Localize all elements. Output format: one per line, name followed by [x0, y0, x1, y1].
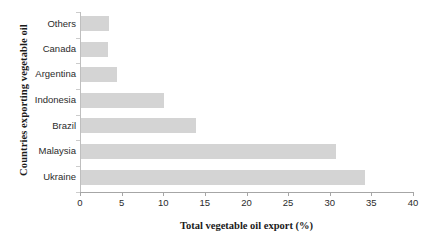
x-axis-tick [205, 192, 206, 196]
x-axis-tick [163, 192, 164, 196]
y-tick-label-argentina: Argentina [22, 68, 76, 79]
y-axis-tick-labels: Others Canada Argentina Indonesia Brazil… [22, 12, 76, 192]
x-tick-label-0: 0 [68, 197, 92, 209]
y-axis-tick [76, 89, 80, 90]
bar-ukraine [81, 170, 365, 185]
x-axis-tick [247, 192, 248, 196]
x-axis-tick-labels: 0510152025303540 [80, 192, 413, 212]
y-axis-tick [76, 166, 80, 167]
x-tick-label-15: 15 [193, 197, 217, 209]
y-axis-tick [76, 12, 80, 13]
bar-brazil [81, 118, 196, 133]
bar-argentina [81, 67, 117, 82]
bar-indonesia [81, 93, 164, 108]
x-tick-label-30: 30 [318, 197, 342, 209]
x-tick-label-20: 20 [235, 197, 259, 209]
x-axis-tick [122, 192, 123, 196]
bar-malaysia [81, 144, 336, 159]
y-axis-tick [76, 115, 80, 116]
y-tick-label-canada: Canada [22, 43, 76, 54]
y-axis-tick [76, 140, 80, 141]
x-axis-tick [288, 192, 289, 196]
x-axis-tick [330, 192, 331, 196]
x-tick-label-40: 40 [401, 197, 425, 209]
bar-others [81, 16, 109, 31]
x-axis-title: Total vegetable oil export (%) [80, 220, 413, 231]
y-tick-label-indonesia: Indonesia [22, 94, 76, 105]
y-tick-label-others: Others [22, 18, 76, 29]
x-tick-label-35: 35 [359, 197, 383, 209]
bar-canada [81, 42, 108, 57]
x-tick-label-25: 25 [276, 197, 300, 209]
y-tick-label-brazil: Brazil [22, 120, 76, 131]
bar-chart: Countries exporting vegetable oil Others… [0, 0, 439, 243]
x-axis-tick [371, 192, 372, 196]
y-tick-label-malaysia: Malaysia [22, 145, 76, 156]
y-axis-tick [76, 63, 80, 64]
x-axis-tick [413, 192, 414, 196]
x-tick-label-10: 10 [151, 197, 175, 209]
y-tick-label-ukraine: Ukraine [22, 171, 76, 182]
x-tick-label-5: 5 [110, 197, 134, 209]
x-axis-tick [80, 192, 81, 196]
y-axis-tick [76, 38, 80, 39]
plot-area [80, 12, 413, 192]
